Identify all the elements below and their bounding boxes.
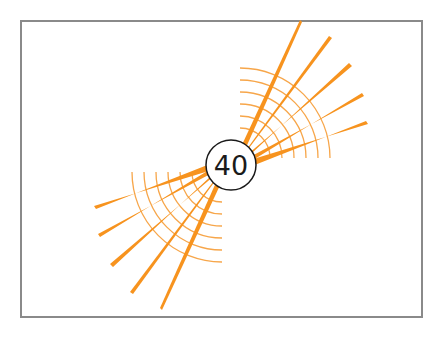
- badge-value: 40: [214, 150, 248, 181]
- burst-lower-left: [94, 160, 228, 310]
- speed-burst-icon: 40: [0, 0, 447, 339]
- burst-upper-right: [234, 20, 368, 170]
